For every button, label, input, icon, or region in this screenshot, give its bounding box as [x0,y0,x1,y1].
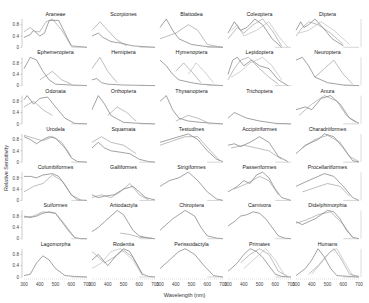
sensitivity-curve [92,210,155,238]
sensitivity-curve [160,96,223,124]
y-tick-label: 0.4 [13,34,20,39]
sensitivity-curve [24,19,71,46]
sensitivity-curve [160,137,220,161]
y-tick-label: 0.8 [13,61,20,66]
panel-title: Neuroptera [314,49,341,55]
panel-title: Scorpiones [110,11,137,17]
y-tick-label: 0.4 [13,110,20,115]
x-tick-label: 500 [52,282,60,287]
panel-title: Passeriformes [243,164,277,170]
y-tick-label: 0 [16,198,19,203]
x-tick-label: 400 [104,282,112,287]
panel: Primates300400500600700 [224,241,295,287]
y-tick-label: 0 [16,160,19,165]
y-tick-label: 0.8 [13,22,20,27]
sensitivity-curve [315,60,353,84]
panel: Thysanoptera [160,88,223,124]
panel-title: Perissodactyla [174,241,208,247]
panel-title: Coleoptera [247,11,273,17]
panel: Strigiformes [160,164,223,200]
y-tick-label: 0 [16,45,19,50]
panel: Procellariiformes [296,164,361,200]
panel: Squamata [92,126,155,162]
panel: Araneae00.40.8 [13,11,87,50]
sensitivity-figure: Araneae00.40.8ScorpionesBlattodeaColeopt… [0,0,369,303]
panel: Chiroptera [160,202,223,238]
x-tick-label: 500 [188,282,196,287]
panel-title: Trichoptera [246,88,273,94]
x-tick-label: 400 [240,282,248,287]
x-tick-label: 400 [36,282,44,287]
sensitivity-curve [24,212,74,238]
panel: Blattodea [160,11,223,47]
panel-title: Anura [320,88,334,94]
x-tick-label: 500 [120,282,128,287]
panel-title: Suiformes [44,202,68,208]
panel: Suiformes00.40.8 [13,202,87,241]
panel: Diptera [296,11,361,47]
sensitivity-curve [160,172,223,200]
panel-title: Rodentia [113,241,134,247]
sensitivity-curve [228,113,291,124]
sensitivity-curve [92,79,155,86]
panel-title: Accipitriformes [242,126,277,132]
x-tick-label: 500 [324,282,332,287]
panel-title: Chiroptera [179,202,204,208]
panel: Odonata00.40.8 [13,88,87,127]
sensitivity-curve [24,174,87,201]
panel: Trichoptera [228,88,291,124]
sensitivity-curve [228,57,288,85]
y-tick-label: 0.8 [13,214,20,219]
panel: Galliformes [92,164,155,200]
panel-title: Testudines [179,126,205,132]
sensitivity-curve [231,145,281,159]
sensitivity-curve [296,134,359,162]
sensitivity-curve [24,96,87,124]
panel: Carnivora [228,202,291,238]
panel-title: Orthoptera [111,88,136,94]
y-tick-label: 0.8 [13,137,20,142]
sensitivity-curve [120,233,152,238]
panel: Artiodactyla [92,202,155,238]
sensitivity-curve [92,250,142,274]
panel: Lepidoptera [228,49,291,85]
panel-title: Galliformes [110,164,137,170]
panel: Hemiptera [92,49,155,85]
y-tick-label: 0.4 [13,225,20,230]
panel-title: Araneae [45,11,65,17]
panel: Lagomorpha00.40.8300400500600700 [13,241,92,287]
sensitivity-curve [24,137,87,162]
sensitivity-curve [299,22,350,45]
sensitivity-curve [296,249,359,277]
panel: Perissodactyla300400500600700 [156,241,227,287]
sensitivity-curve [24,256,87,277]
x-tick-label: 700 [355,282,363,287]
x-tick-label: 300 [224,282,232,287]
x-tick-label: 400 [172,282,180,287]
sensitivity-curve [299,96,356,123]
panel-title: Diptera [319,11,336,17]
panel: Columbiformes00.40.8 [13,164,87,203]
x-tick-label: 300 [88,282,96,287]
panel-title: Primates [249,241,270,247]
sensitivity-curve [24,57,87,85]
y-tick-label: 0 [16,122,19,127]
y-tick-label: 0 [16,236,19,241]
y-tick-label: 0.4 [13,149,20,154]
panel: Neuroptera [296,49,361,85]
sensitivity-curve [296,210,359,238]
sensitivity-curve [176,63,201,83]
panel-title: Urodela [46,126,65,132]
sensitivity-curve [24,135,71,156]
sensitivity-curve [231,57,281,80]
sensitivity-curve [228,137,288,162]
sensitivity-curve [228,212,291,239]
panel-title: Squamata [111,126,135,132]
x-tick-label: 600 [271,282,279,287]
y-tick-label: 0.4 [13,263,20,268]
panel-title: Thysanoptera [175,88,207,94]
sensitivity-curve [24,20,87,47]
y-axis-label-text: Relative Sensitivity [3,111,9,226]
panel: Ephemeroptera00.40.8 [13,49,87,88]
x-tick-label: 400 [308,282,316,287]
